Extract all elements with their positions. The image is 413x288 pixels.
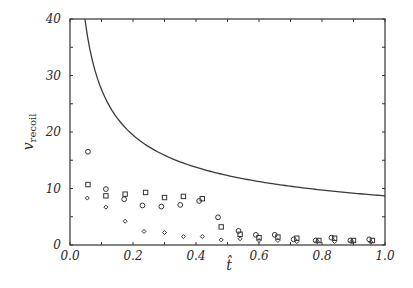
diamond-marker bbox=[219, 238, 223, 242]
diamond-marker bbox=[123, 219, 127, 223]
square-marker bbox=[123, 192, 127, 196]
y-tick-label: 40 bbox=[45, 12, 62, 26]
diamond-marker bbox=[142, 229, 146, 233]
diamond-marker bbox=[200, 235, 204, 239]
axis-ticks bbox=[70, 19, 385, 245]
y-tick-label: 0 bbox=[53, 238, 61, 252]
series-diamonds bbox=[85, 196, 373, 244]
x-tick-label: 1.0 bbox=[375, 249, 394, 263]
series-circles bbox=[86, 149, 372, 243]
x-tick-label: 0.8 bbox=[312, 249, 331, 263]
circle-marker bbox=[159, 204, 164, 209]
svg-text:vrecoil: vrecoil bbox=[20, 114, 38, 151]
circle-marker bbox=[367, 237, 372, 242]
diamond-marker bbox=[163, 231, 167, 235]
chart: 0.00.20.40.60.81.0 010203040 t̂ vrecoil bbox=[0, 0, 413, 288]
data-points bbox=[85, 149, 374, 244]
square-marker bbox=[104, 194, 108, 198]
square-marker bbox=[219, 225, 223, 229]
curve-line bbox=[85, 19, 385, 196]
circle-marker bbox=[122, 197, 127, 202]
y-axis-label-main: v bbox=[20, 142, 36, 150]
circle-marker bbox=[178, 202, 183, 207]
square-marker bbox=[143, 190, 147, 194]
y-axis-label-sub: recoil bbox=[27, 114, 38, 143]
y-tick-label: 10 bbox=[46, 182, 62, 196]
circle-marker bbox=[253, 232, 258, 237]
circle-marker bbox=[104, 187, 109, 192]
diamond-marker bbox=[369, 240, 373, 244]
square-marker bbox=[181, 194, 185, 198]
y-tick-labels: 010203040 bbox=[45, 12, 62, 252]
circle-marker bbox=[86, 149, 91, 154]
x-tick-label: 0.4 bbox=[186, 249, 205, 263]
circle-marker bbox=[216, 215, 221, 220]
bound-curve bbox=[85, 19, 385, 196]
square-marker bbox=[86, 182, 90, 186]
y-axis-label: vrecoil bbox=[20, 114, 38, 151]
plot-border bbox=[70, 19, 385, 245]
x-tick-label: 0.0 bbox=[60, 249, 79, 263]
y-tick-label: 20 bbox=[45, 125, 62, 139]
x-axis-label: t̂ bbox=[226, 255, 232, 273]
x-tick-label: 0.2 bbox=[123, 249, 142, 263]
diamond-marker bbox=[257, 238, 261, 242]
plot-frame bbox=[70, 19, 385, 245]
circle-marker bbox=[140, 203, 145, 208]
diamond-marker bbox=[238, 237, 242, 241]
diamond-marker bbox=[85, 196, 89, 200]
y-tick-label: 30 bbox=[46, 69, 62, 83]
x-tick-label: 0.6 bbox=[249, 249, 268, 263]
diamond-marker bbox=[104, 205, 108, 209]
diamond-marker bbox=[181, 235, 185, 239]
square-marker bbox=[162, 195, 166, 199]
